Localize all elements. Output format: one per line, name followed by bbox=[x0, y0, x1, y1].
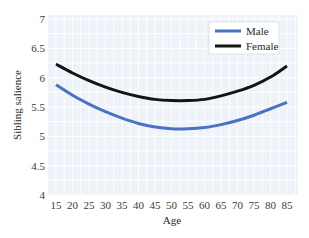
line-chart: 44.555.566.57 15202530354045505560657075… bbox=[0, 0, 309, 238]
x-tick-label: 40 bbox=[133, 199, 145, 211]
y-tick-label: 5.5 bbox=[31, 101, 45, 113]
x-axis-ticks: 152025303540455055606570758085 bbox=[51, 199, 294, 211]
y-tick-label: 6.5 bbox=[31, 42, 45, 54]
x-tick-label: 25 bbox=[84, 199, 96, 211]
x-tick-label: 85 bbox=[282, 199, 294, 211]
y-tick-label: 4.5 bbox=[31, 160, 45, 172]
x-tick-label: 75 bbox=[249, 199, 261, 211]
x-tick-label: 60 bbox=[199, 199, 211, 211]
x-tick-label: 65 bbox=[216, 199, 228, 211]
legend-label-female: Female bbox=[246, 40, 278, 52]
x-tick-label: 20 bbox=[67, 199, 79, 211]
x-axis-title: Age bbox=[163, 214, 181, 226]
x-tick-label: 15 bbox=[51, 199, 63, 211]
x-tick-label: 35 bbox=[117, 199, 129, 211]
x-tick-label: 70 bbox=[232, 199, 244, 211]
y-tick-label: 7 bbox=[40, 13, 46, 25]
y-axis-ticks: 44.555.566.57 bbox=[31, 13, 45, 201]
x-tick-label: 30 bbox=[100, 199, 112, 211]
x-tick-label: 80 bbox=[265, 199, 277, 211]
x-tick-label: 50 bbox=[166, 199, 178, 211]
y-tick-label: 6 bbox=[40, 72, 46, 84]
y-axis-title: Sibling salience bbox=[11, 70, 23, 140]
x-tick-label: 55 bbox=[183, 199, 195, 211]
y-tick-label: 4 bbox=[40, 189, 46, 201]
y-tick-label: 5 bbox=[40, 130, 46, 142]
legend-label-male: Male bbox=[246, 25, 269, 37]
legend: Male Female bbox=[209, 22, 279, 54]
x-tick-label: 45 bbox=[150, 199, 162, 211]
